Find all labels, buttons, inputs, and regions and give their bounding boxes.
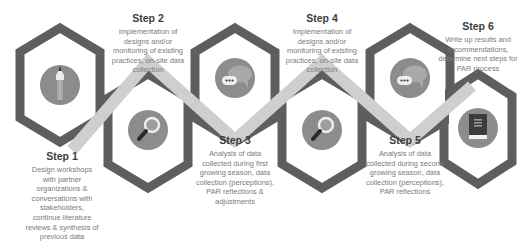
step-title: Step 3 xyxy=(182,134,288,147)
desc-line: growing season, data xyxy=(352,168,458,178)
desc-line: with partner xyxy=(8,175,116,185)
step-description: Implementation of designs and/or monitor… xyxy=(98,27,198,75)
step-3: Step 3 Analysis of data collected during… xyxy=(182,134,288,207)
desc-line: stakeholders, xyxy=(8,203,116,213)
step-5: Step 5 Analysis of data collected during… xyxy=(352,134,458,197)
desc-line: organizations & xyxy=(8,184,116,194)
desc-line: Implementation of xyxy=(98,27,198,37)
step-title: Step 2 xyxy=(98,12,198,25)
step-title: Step 6 xyxy=(428,20,521,33)
desc-line: collection (perceptions), xyxy=(182,178,288,188)
step-description: Design workshops with partner organizati… xyxy=(8,165,116,242)
desc-line: conversations with xyxy=(8,194,116,204)
desc-line: practices, on-site data xyxy=(272,56,372,66)
book-icon xyxy=(469,114,487,139)
step-title: Step 4 xyxy=(272,12,372,25)
step-description: Write up results and recommendations, de… xyxy=(428,35,521,73)
desc-line: PAR reflections xyxy=(352,187,458,197)
step-2: Step 2 Implementation of designs and/or … xyxy=(98,12,198,75)
desc-line: Write up results and xyxy=(428,35,521,45)
desc-line: Analysis of data xyxy=(352,149,458,159)
step-description: Analysis of data collected during second… xyxy=(352,149,458,197)
desc-line: collected during first xyxy=(182,159,288,169)
desc-line: practices, on-site data xyxy=(98,56,198,66)
desc-line: monitoring of existing xyxy=(98,46,198,56)
desc-line: adjustments xyxy=(182,197,288,207)
desc-line: collection xyxy=(98,65,198,75)
desc-line: determine next steps for xyxy=(428,54,521,64)
desc-line: Analysis of data xyxy=(182,149,288,159)
desc-line: designs and/or xyxy=(98,37,198,47)
step-title: Step 1 xyxy=(8,150,116,163)
desc-line: PAR process xyxy=(428,64,521,74)
step-4: Step 4 Implementation of designs and/or … xyxy=(272,12,372,75)
desc-line: Implementation of xyxy=(272,27,372,37)
desc-line: collection (perceptions), xyxy=(352,178,458,188)
desc-line: collection xyxy=(272,65,372,75)
desc-line: reviews & synthesis of xyxy=(8,223,116,233)
desc-line: monitoring of existing xyxy=(272,46,372,56)
desc-line: previous data xyxy=(8,232,116,242)
step-6: Step 6 Write up results and recommendati… xyxy=(428,20,521,73)
desc-line: PAR reflections & xyxy=(182,187,288,197)
step-1: Step 1 Design workshops with partner org… xyxy=(8,150,116,242)
desc-line: continue literature xyxy=(8,213,116,223)
desc-line: growing season, data xyxy=(182,168,288,178)
desc-line: collected during second xyxy=(352,159,458,169)
desc-line: recommendations, xyxy=(428,45,521,55)
step-title: Step 5 xyxy=(352,134,458,147)
step-description: Analysis of data collected during first … xyxy=(182,149,288,207)
desc-line: designs and/or xyxy=(272,37,372,47)
step-description: Implementation of designs and/or monitor… xyxy=(272,27,372,75)
desc-line: Design workshops xyxy=(8,165,116,175)
